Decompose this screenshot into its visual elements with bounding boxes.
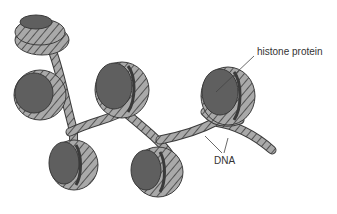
nucleosome — [14, 70, 66, 120]
nucleosome — [95, 62, 149, 118]
dna-leader-line-left — [205, 136, 222, 153]
nucleosome — [201, 67, 255, 125]
nucleosome-illustration — [0, 0, 337, 214]
dna-label: DNA — [214, 155, 235, 166]
nucleosome — [131, 147, 183, 197]
histone-protein-label: histone protein — [257, 46, 323, 57]
nucleosome — [15, 15, 69, 55]
nucleosome — [49, 140, 98, 190]
nucleosome-diagram: histone protein DNA — [0, 0, 337, 214]
dna-leader-line-right — [224, 138, 228, 153]
